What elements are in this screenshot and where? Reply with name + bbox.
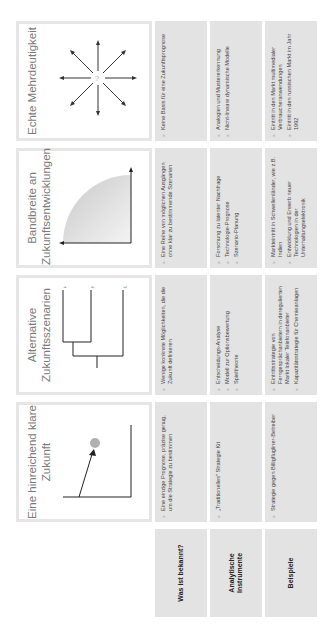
ambiguity-starburst-icon: ? — [59, 32, 139, 124]
corner-empty — [16, 529, 152, 617]
column-header-clear-future: Eine hinreichend klare Zukunft — [16, 402, 152, 522]
bullet-text: Markteintritt in Schwellenländer, wie z.… — [270, 152, 284, 264]
bullet-text: Kapazitätsstrategie für Chemieanlagen — [293, 279, 300, 391]
bullet-text: Nicht-lineare dynamische Modelle — [224, 25, 231, 137]
range-quarter-circle-icon — [59, 159, 139, 251]
bullet-text: Eine einzige Prognose, präzise genug, um… — [160, 406, 174, 518]
bullet-text: Forschung zu latenter Nachfrage — [215, 152, 222, 264]
column-title: Echte Mehrdeutigkeit — [25, 24, 39, 138]
bullet-text: Eine Reihe von möglichen Ausgängen ohne … — [160, 152, 174, 264]
cell-known-range: Eine Reihe von möglichen Ausgängen ohne … — [155, 148, 207, 268]
column-header-range-of-futures: Bandbreite an Zukunftsentwicklungen — [16, 148, 152, 268]
cell-tools-ambiguity: Analogien und Mustererkennung Nicht-line… — [210, 21, 262, 141]
uncertainty-levels-table: Eine hinreichend klare Zukunft Alternati… — [16, 17, 314, 617]
svg-text:2: 2 — [91, 286, 95, 289]
row-label-what-is-known: Was ist bekannt? — [155, 529, 207, 617]
single-point-forecast-icon — [59, 413, 139, 505]
column-header-alternative-scenarios: Alternative Zukunftsszenarien 1 2 3 — [16, 275, 152, 395]
bullet-text: Strategie gegen Billigflugliner-Betreibe… — [270, 406, 277, 518]
bullet-text: Wenige konkrete Möglichkeiten, die die Z… — [160, 279, 174, 391]
bullet-text: Modell zur Optionsbewertung — [224, 279, 231, 391]
cell-examples-range: Markteintritt in Schwellenländer, wie z.… — [265, 148, 317, 268]
bullet-text: Analogien und Mustererkennung — [215, 25, 222, 137]
cell-known-ambiguity: Keine Basis für eine Zukunftsprognose — [155, 21, 207, 141]
bullet-text: Eintritt in den russischen Markt im Jahr… — [286, 25, 300, 137]
bullet-text: Entscheidungs-Analyse — [215, 279, 222, 391]
svg-text:1: 1 — [63, 286, 67, 289]
cell-examples-ambiguity: Eintritt in den Markt multimedialer Verb… — [265, 21, 317, 141]
column-title: Alternative Zukunftsszenarien — [25, 278, 53, 392]
svg-text:?: ? — [95, 75, 99, 82]
cell-tools-alternative: Entscheidungs-Analyse Modell zur Options… — [210, 275, 262, 395]
bullet-text: Keine Basis für eine Zukunftsprognose — [160, 25, 167, 137]
bullet-text: „Traditionelles" Strategie Kit — [215, 406, 222, 518]
column-title: Bandbreite an Zukunftsentwicklungen — [25, 151, 53, 265]
row-label-analytical-tools: Analytische Instrumente — [210, 529, 262, 617]
svg-text:3: 3 — [123, 286, 127, 289]
bullet-text: Entwicklung und Erwerb neuer Technologie… — [286, 152, 307, 264]
cell-known-alternative: Wenige konkrete Möglichkeiten, die die Z… — [155, 275, 207, 395]
bullet-text: Technologie-Prognose — [224, 152, 231, 264]
bullet-text: Szenario-Planung — [233, 152, 240, 264]
row-label-examples: Beispiele — [265, 529, 317, 617]
column-title: Eine hinreichend klare Zukunft — [25, 405, 53, 519]
bullet-text: Eintrittsstrategie von Ferngesprächanbie… — [270, 279, 291, 391]
cell-examples-clear-future: Strategie gegen Billigflugliner-Betreibe… — [265, 402, 317, 522]
bullet-text: Eintritt in den Markt multimedialer Verb… — [270, 25, 284, 137]
scenario-tree-icon: 1 2 3 — [59, 286, 139, 378]
bullet-text: Spieltheorie — [233, 279, 240, 391]
cell-tools-range: Forschung zu latenter Nachfrage Technolo… — [210, 148, 262, 268]
column-header-true-ambiguity: Echte Mehrdeutigkeit ? — [16, 21, 152, 141]
cell-examples-alternative: Eintrittsstrategie von Ferngesprächanbie… — [265, 275, 317, 395]
cell-known-clear-future: Eine einzige Prognose, präzise genug, um… — [155, 402, 207, 522]
cell-tools-clear-future: „Traditionelles" Strategie Kit — [210, 402, 262, 522]
